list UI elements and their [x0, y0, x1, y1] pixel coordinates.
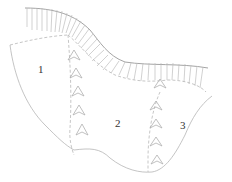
- toe: [74, 96, 212, 172]
- zone-label-3: 3: [180, 119, 186, 131]
- landslide-diagram: 1 2 3: [0, 0, 232, 182]
- boundary-1-2: [68, 35, 74, 155]
- chevron-icon: [150, 137, 162, 146]
- scarp-line: [25, 8, 208, 68]
- left-flank: [10, 45, 74, 150]
- chevron-icon: [72, 86, 84, 96]
- chevron-icon: [151, 155, 163, 164]
- zone-label-1: 1: [38, 63, 44, 75]
- chevron-icon: [70, 68, 82, 78]
- chevron-icon: [73, 105, 85, 115]
- chevron-icon: [150, 119, 162, 128]
- zone-label-2: 2: [115, 117, 121, 129]
- chevron-icon: [76, 124, 88, 135]
- scarp-hatching: [27, 8, 203, 88]
- zone-boundaries: [10, 35, 206, 172]
- flow-markers-right: [150, 79, 166, 164]
- boundary-head: [10, 35, 68, 45]
- main-scarp: [25, 8, 208, 88]
